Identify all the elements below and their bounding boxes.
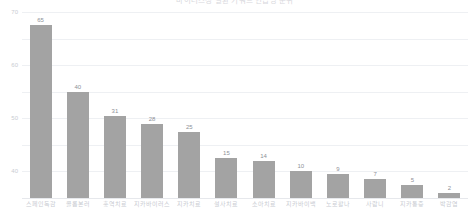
x-axis-tick-label: 홍역치료 [96,200,133,218]
bar-value-label: 5 [411,177,414,184]
bar-value-label: 65 [37,17,44,24]
bar-value-label: 28 [149,116,156,123]
bar-item[interactable]: 25 [171,12,208,198]
bar-value-label: 9 [336,166,339,173]
bar-rect[interactable] [104,116,126,198]
bar-item[interactable]: 31 [96,12,133,198]
bar-value-label: 15 [223,150,230,157]
bar-item[interactable]: 65 [22,12,59,198]
bar-rect[interactable] [401,185,423,198]
bar-item[interactable]: 28 [134,12,171,198]
bar-value-label: 2 [448,185,451,192]
gridline: 0 [22,198,468,199]
bar-item[interactable]: 10 [282,12,319,198]
bar-rect[interactable] [141,124,163,198]
bar-value-label: 40 [74,84,81,91]
x-axis-tick-label: 스페인독감 [22,200,59,218]
bar-rect[interactable] [327,174,349,198]
bar-series: 65403128251514109752 [22,12,468,198]
bar-item[interactable]: 7 [357,12,394,198]
x-axis-tick-label: 콜롬본러 [59,200,96,218]
bar-item[interactable]: 40 [59,12,96,198]
x-axis-labels: 스페인독감콜롬본러홍역치료지카바이러스지카치료설사치료소아치료지카바이백노로활나… [22,200,468,218]
x-axis-tick-label: 지카바이러스 [134,200,171,218]
bar-rect[interactable] [253,161,275,198]
bar-item[interactable]: 14 [245,12,282,198]
y-axis-tick-label: 60 [11,62,18,68]
bar-item[interactable]: 15 [208,12,245,198]
y-axis-tick-label: 40 [11,168,18,174]
bar-rect[interactable] [215,158,237,198]
bar-value-label: 25 [186,124,193,131]
x-axis-tick-label: 지카바이백 [282,200,319,218]
bar-value-label: 7 [373,171,376,178]
bar-item[interactable]: 5 [394,12,431,198]
bar-value-label: 14 [260,153,267,160]
x-axis-tick-label: 박감염 [431,200,468,218]
y-axis-tick-label: 50 [11,115,18,121]
bar-rect[interactable] [290,171,312,198]
bar-value-label: 10 [297,163,304,170]
bar-rect[interactable] [178,132,200,198]
bar-rect[interactable] [364,179,386,198]
bar-rect[interactable] [67,92,89,198]
x-axis-tick-label: 노로활나 [319,200,356,218]
y-axis-tick-label: 70 [11,9,18,15]
bar-item[interactable]: 9 [319,12,356,198]
x-axis-tick-label: 사람니 [357,200,394,218]
bar-value-label: 31 [112,108,119,115]
x-axis-tick-label: 지카치료 [171,200,208,218]
chart-title: 바이러스성 질환 키워드 언급량 순위 [0,0,470,5]
plot-area: 010203040506070 65403128251514109752 [22,12,468,198]
bar-rect[interactable] [438,193,460,198]
x-axis-tick-label: 설사치료 [208,200,245,218]
x-axis-tick-label: 소아치료 [245,200,282,218]
bar-item[interactable]: 2 [431,12,468,198]
x-axis-tick-label: 지카통증 [394,200,431,218]
bar-chart: 바이러스성 질환 키워드 언급량 순위 010203040506070 6540… [0,0,470,221]
bar-rect[interactable] [30,25,52,198]
